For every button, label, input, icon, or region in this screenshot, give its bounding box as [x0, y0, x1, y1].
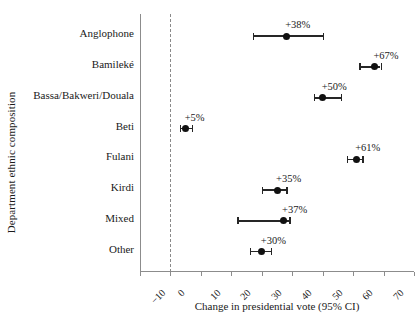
x-axis-title: Change in presidential vote (95% CI) — [140, 300, 414, 312]
confidence-interval-cap — [286, 187, 287, 194]
estimate-point-marker[interactable] — [274, 187, 281, 194]
x-axis-tick-label: 0 — [176, 287, 187, 298]
category-label: Fulani — [106, 150, 134, 162]
y-axis-line — [140, 14, 141, 272]
confidence-interval-cap — [314, 94, 315, 101]
estimate-point-marker[interactable] — [258, 248, 265, 255]
estimate-point-marker[interactable] — [319, 94, 326, 101]
confidence-interval-cap — [289, 217, 290, 224]
x-axis-tick — [323, 272, 324, 276]
confidence-interval-cap — [262, 187, 263, 194]
confidence-interval-cap — [323, 33, 324, 40]
estimate-point-marker[interactable] — [182, 125, 189, 132]
category-label: Bamileké — [92, 58, 134, 70]
x-axis-tick — [384, 272, 385, 276]
x-axis-tick — [231, 272, 232, 276]
x-axis-tick — [262, 272, 263, 276]
point-value-label: +50% — [322, 81, 347, 92]
point-value-label: +67% — [373, 50, 398, 61]
x-axis-tick — [353, 272, 354, 276]
confidence-interval-cap — [192, 125, 193, 132]
confidence-interval-cap — [362, 156, 363, 163]
point-value-label: +61% — [355, 142, 380, 153]
point-value-label: +38% — [285, 19, 310, 30]
category-label: Beti — [116, 120, 134, 132]
x-axis-tick — [292, 272, 293, 276]
confidence-interval-cap — [359, 63, 360, 70]
x-axis-tick — [170, 272, 171, 276]
confidence-interval-cap — [250, 248, 251, 255]
confidence-interval-cap — [271, 248, 272, 255]
x-axis-tick — [414, 272, 415, 276]
estimate-point-marker[interactable] — [283, 33, 290, 40]
plot-area: −1001020304050607080Anglophone+38%Bamile… — [140, 14, 414, 272]
confidence-interval-cap — [253, 33, 254, 40]
confidence-interval-line — [314, 97, 341, 99]
category-label: Kirdi — [111, 181, 134, 193]
confidence-interval-cap — [341, 94, 342, 101]
point-value-label: +30% — [261, 235, 286, 246]
x-axis-tick — [201, 272, 202, 276]
category-label: Mixed — [105, 212, 134, 224]
point-value-label: +5% — [185, 112, 205, 123]
category-label: Anglophone — [80, 27, 134, 39]
point-value-label: +35% — [276, 173, 301, 184]
category-label: Bassa/Bakweri/Douala — [33, 89, 134, 101]
point-value-label: +37% — [282, 204, 307, 215]
confidence-interval-cap — [347, 156, 348, 163]
confidence-interval-cap — [381, 63, 382, 70]
confidence-interval-cap — [237, 217, 238, 224]
category-label: Other — [109, 243, 134, 255]
y-axis-title: Department ethnic composition — [0, 0, 22, 325]
estimate-point-marker[interactable] — [280, 217, 287, 224]
x-axis-tick — [140, 272, 141, 276]
x-axis-line — [140, 271, 414, 272]
forest-plot-figure: Department ethnic composition −100102030… — [0, 0, 418, 325]
confidence-interval-cap — [180, 125, 181, 132]
zero-reference-line — [170, 14, 171, 272]
estimate-point-marker[interactable] — [371, 63, 378, 70]
estimate-point-marker[interactable] — [353, 156, 360, 163]
